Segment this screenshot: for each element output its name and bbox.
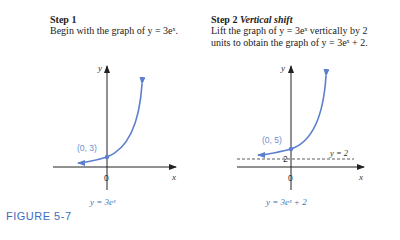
point-label: (0, 5) bbox=[262, 135, 282, 145]
origin-label: 0 bbox=[104, 173, 109, 183]
graph-step2: (0, 5) y x 0 2 y = 2 bbox=[237, 63, 364, 190]
point-marker bbox=[105, 155, 109, 159]
step2-caption: y = 3eˣ + 2 bbox=[266, 197, 307, 207]
point-label: (0, 3) bbox=[77, 143, 97, 153]
y-axis-label: y bbox=[280, 63, 285, 73]
figure-label: FIGURE 5-7 bbox=[6, 210, 72, 222]
origin-label: 0 bbox=[288, 173, 293, 183]
figure-graphs: (0, 3) y x 0 (0, 5) y x 0 2 y = 2 bbox=[0, 0, 400, 240]
step1-caption: y = 3eˣ bbox=[90, 197, 116, 207]
graph-step1: (0, 3) y x 0 bbox=[53, 63, 176, 190]
asymptote-label: y = 2 bbox=[329, 148, 349, 158]
x-axis-label: x bbox=[171, 172, 176, 182]
asymptote-tick-label: 2 bbox=[283, 154, 288, 164]
point-marker bbox=[289, 147, 293, 151]
y-axis-label: y bbox=[97, 63, 102, 73]
x-axis-label: x bbox=[358, 172, 363, 182]
